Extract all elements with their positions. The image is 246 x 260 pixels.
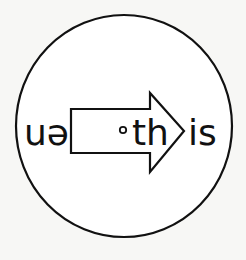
right-text: is [188,112,217,153]
arrow-text: th [132,112,169,153]
left-text: uə [24,112,69,153]
phonics-card: uə th is [0,0,246,260]
